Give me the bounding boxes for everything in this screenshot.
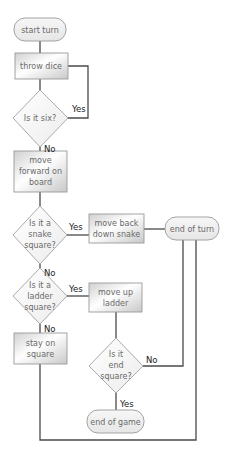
label-ladder-no: No	[44, 324, 56, 334]
node-move-up: move up ladder	[89, 283, 142, 312]
node-label-line-2: down snake	[93, 230, 141, 239]
label-end-yes: Yes	[119, 399, 134, 409]
flowchart: start turn throw dice Is it six? move fo…	[0, 0, 234, 460]
node-label: Is it six?	[24, 114, 56, 123]
label-ladder-yes: Yes	[68, 284, 83, 294]
node-label-line-2: ladder	[103, 299, 129, 308]
edge-end-no	[143, 240, 183, 366]
node-label-line-2: forward on	[19, 167, 62, 176]
node-label: throw dice	[20, 62, 62, 71]
node-label-line-3: board	[29, 178, 52, 187]
node-label-line-2: snake	[28, 230, 51, 239]
label-six-no: No	[44, 144, 56, 154]
decision-is-ladder: Is it a ladder square?	[13, 268, 67, 324]
node-end-of-game: end of game	[87, 410, 144, 433]
node-stay-on-square: stay on square	[14, 333, 67, 364]
node-label-line-3: square?	[24, 303, 56, 312]
node-label-line-1: move back	[95, 219, 139, 228]
node-label-line-1: stay on	[26, 339, 55, 348]
node-label: start turn	[21, 26, 59, 35]
label-end-no: No	[146, 355, 158, 365]
node-label-line-1: Is it a	[29, 281, 51, 290]
node-label-line-2: end	[108, 361, 123, 370]
node-end-of-turn: end of turn	[165, 217, 219, 240]
node-start-turn: start turn	[14, 18, 66, 41]
node-label-line-1: Is it	[109, 350, 123, 359]
label-six-yes: Yes	[71, 104, 86, 114]
node-throw-dice: throw dice	[15, 53, 68, 79]
label-snake-no: No	[44, 268, 56, 278]
node-label: end of game	[90, 418, 141, 427]
decision-is-six: Is it six?	[13, 90, 68, 147]
node-label-line-3: square?	[24, 241, 56, 250]
node-label-line-1: Is it a	[29, 219, 51, 228]
node-label-line-1: move	[29, 156, 51, 165]
node-label-line-2: ladder	[27, 292, 53, 301]
node-label-line-1: move up	[98, 288, 133, 297]
decision-is-snake: Is it a snake square?	[13, 206, 67, 264]
node-label: end of turn	[170, 225, 214, 234]
decision-is-end: Is it end square?	[89, 338, 143, 393]
label-snake-yes: Yes	[68, 222, 83, 232]
node-label-line-2: square	[27, 350, 54, 359]
node-move-forward: move forward on board	[14, 151, 67, 192]
node-move-back: move back down snake	[89, 214, 144, 243]
node-label-line-3: square?	[100, 372, 132, 381]
